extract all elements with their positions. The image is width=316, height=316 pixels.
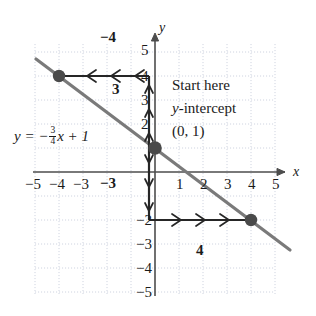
equation-suffix: x + 1 — [57, 128, 89, 144]
fraction-numerator: 3 — [49, 126, 56, 136]
x-tick-1: 1 — [176, 177, 184, 192]
x-axis-arrow — [277, 168, 285, 175]
point-neg4-4 — [53, 70, 65, 82]
y-tick-2: 2 — [141, 117, 149, 132]
point-y-intercept — [148, 141, 162, 155]
equation-prefix: y = − — [14, 128, 48, 144]
y-axis-label: y — [159, 21, 165, 35]
annotation-rise-up: 3 — [112, 82, 120, 97]
y-tick-neg4: −4 — [136, 261, 152, 276]
note-intercept-rest: -intercept — [179, 100, 236, 116]
x-tick-2: 2 — [200, 177, 208, 192]
y-axis-arrow — [151, 33, 158, 41]
x-tick-3: 3 — [224, 177, 232, 192]
note-intercept-point: (0, 1) — [172, 124, 205, 139]
x-tick-neg3: −3 — [73, 177, 89, 192]
annotation-rise-down: −3 — [100, 176, 116, 191]
x-tick-4: 4 — [248, 177, 256, 192]
x-tick-neg4: −4 — [49, 177, 65, 192]
y-tick-neg2: −2 — [136, 213, 152, 228]
x-tick-neg5: −5 — [25, 177, 41, 192]
note-start-here: Start here — [172, 78, 230, 93]
equation-label: y = −34x + 1 — [14, 126, 89, 147]
annotation-run-right: 4 — [196, 243, 204, 258]
annotation-run-left: −4 — [100, 30, 116, 45]
point-4-neg2 — [245, 214, 257, 226]
y-tick-neg5: −5 — [136, 285, 152, 300]
y-tick-neg3: −3 — [136, 237, 152, 252]
graph-figure — [0, 0, 316, 316]
y-tick-3: 3 — [141, 93, 149, 108]
x-axis-label: x — [293, 165, 299, 179]
note-y-intercept: y-intercept — [172, 101, 236, 116]
x-tick-5: 5 — [272, 177, 280, 192]
note-y-italic: y — [172, 100, 179, 116]
axes — [33, 33, 285, 296]
equation-fraction: 34 — [49, 126, 56, 147]
fraction-denominator: 4 — [49, 136, 56, 147]
y-tick-4: 4 — [141, 69, 149, 84]
y-tick-5: 5 — [141, 43, 149, 58]
